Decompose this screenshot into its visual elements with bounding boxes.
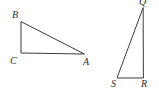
triangle-qrs-outline <box>117 8 143 78</box>
vertex-label-c: C <box>10 56 17 66</box>
vertex-label-s: S <box>111 79 116 89</box>
triangle-abc <box>21 22 84 54</box>
vertex-label-b: B <box>12 10 18 20</box>
geometry-figure: B C A Q S R <box>0 0 159 93</box>
figure-canvas <box>0 0 159 93</box>
vertex-label-r: R <box>141 79 147 89</box>
triangle-qrs <box>117 8 143 78</box>
vertex-label-a: A <box>83 57 89 67</box>
triangle-abc-outline <box>21 22 84 54</box>
vertex-label-q: Q <box>139 0 146 7</box>
